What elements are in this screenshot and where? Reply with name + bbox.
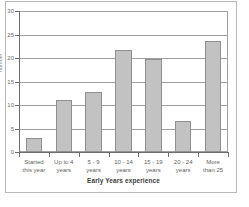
x-axis-tick (79, 153, 80, 157)
bar-slot (19, 11, 49, 152)
x-axis-tick-label: 5 - 9 years (79, 159, 109, 174)
bar[interactable] (56, 100, 72, 152)
bar-slot (109, 11, 139, 152)
x-axis-tick-label: Up to 4 years (49, 159, 79, 174)
x-axis-tick (49, 153, 50, 157)
x-axis-tick-label: 15 - 19 years (138, 159, 168, 174)
bar[interactable] (26, 138, 42, 152)
y-axis-tick (15, 105, 19, 106)
y-axis-tick (15, 129, 19, 130)
y-axis-tick-label-text: 15 (1, 79, 14, 85)
chart-screenshot: 051015202530 Started this yearUp to 4 ye… (0, 0, 249, 207)
bar-slot (79, 11, 109, 152)
x-axis-tick (138, 153, 139, 157)
x-axis-title: Early Years experience (19, 177, 228, 184)
x-axis-tick (228, 153, 229, 157)
x-axis-tick (198, 153, 199, 157)
bar[interactable] (115, 50, 131, 152)
bar[interactable] (175, 121, 191, 152)
bar[interactable] (205, 41, 221, 152)
x-axis-tick-label: Started this year (19, 159, 49, 174)
y-axis-tick (15, 58, 19, 59)
bar-slot (198, 11, 228, 152)
y-axis-tick-label-text: 10 (1, 102, 14, 108)
bar[interactable] (145, 59, 161, 152)
y-axis-tick (15, 35, 19, 36)
bar-slot (168, 11, 198, 152)
y-axis-tick-label-text: 30 (1, 8, 14, 14)
x-axis-tick (19, 153, 20, 157)
y-axis-tick-label-text: 25 (1, 32, 14, 38)
x-axis-tick-label: More than 25 (198, 159, 228, 174)
x-axis-tick (109, 153, 110, 157)
y-axis-tick-label-text: 0 (1, 149, 14, 155)
x-axis-tick-label: 20 - 24 years (168, 159, 198, 174)
x-axis-tick-label: 10 - 14 years (109, 159, 139, 174)
y-axis-tick-label-text: 5 (1, 126, 14, 132)
bars-group (19, 11, 228, 152)
y-axis-tick (15, 11, 19, 12)
y-axis-line (19, 11, 20, 153)
y-axis-title: number (0, 53, 3, 72)
y-axis-tick (15, 82, 19, 83)
bar-slot (138, 11, 168, 152)
bar-slot (49, 11, 79, 152)
x-axis-tick (168, 153, 169, 157)
bar[interactable] (85, 92, 101, 152)
